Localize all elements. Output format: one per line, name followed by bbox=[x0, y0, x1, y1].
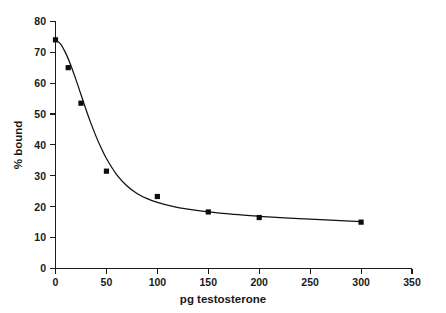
data-point bbox=[53, 37, 58, 42]
x-tick-label-0: 0 bbox=[53, 276, 59, 288]
y-axis-title: % bound bbox=[12, 121, 24, 170]
y-tick-label-10: 10 bbox=[34, 231, 46, 243]
y-tick-label-70: 70 bbox=[34, 46, 46, 58]
data-point bbox=[358, 220, 363, 225]
y-tick-label-50: 50 bbox=[34, 108, 46, 120]
x-tick-label-50: 50 bbox=[101, 276, 113, 288]
x-tick-label-250: 250 bbox=[301, 276, 319, 288]
data-point bbox=[206, 209, 211, 214]
x-tick-label-350: 350 bbox=[403, 276, 421, 288]
chart-container: 0 10 20 30 40 50 60 70 80 0 50 100 150 2… bbox=[0, 0, 446, 313]
x-axis-title: pg testosterone bbox=[180, 293, 266, 305]
y-tick-label-20: 20 bbox=[34, 201, 46, 213]
chart-background bbox=[0, 0, 446, 313]
y-tick-label-80: 80 bbox=[34, 15, 46, 27]
x-tick-label-300: 300 bbox=[352, 276, 370, 288]
y-tick-label-30: 30 bbox=[34, 170, 46, 182]
data-point bbox=[78, 101, 83, 106]
data-point bbox=[257, 215, 262, 220]
x-tick-label-100: 100 bbox=[149, 276, 167, 288]
y-tick-label-60: 60 bbox=[34, 77, 46, 89]
y-tick-label-0: 0 bbox=[40, 262, 46, 274]
x-tick-label-150: 150 bbox=[200, 276, 218, 288]
data-point bbox=[104, 169, 109, 174]
y-tick-label-40: 40 bbox=[34, 139, 46, 151]
data-point bbox=[66, 65, 71, 70]
data-point bbox=[155, 194, 160, 199]
binding-curve-chart: 0 10 20 30 40 50 60 70 80 0 50 100 150 2… bbox=[0, 0, 446, 313]
x-tick-label-200: 200 bbox=[250, 276, 268, 288]
